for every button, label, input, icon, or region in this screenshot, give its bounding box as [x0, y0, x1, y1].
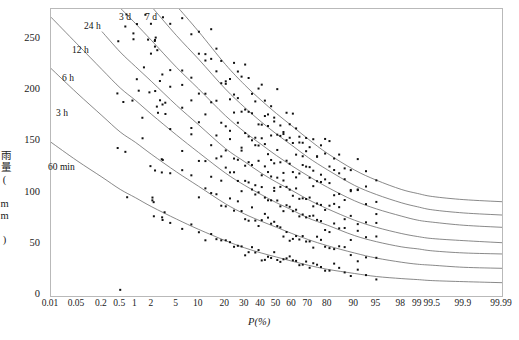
scatter-point	[312, 138, 314, 140]
scatter-point	[225, 149, 227, 151]
scatter-point	[220, 239, 222, 241]
scatter-point	[320, 181, 322, 183]
y-tick-label: 200	[6, 83, 40, 94]
scatter-point	[324, 153, 326, 155]
scatter-point	[289, 189, 291, 191]
scatter-point	[261, 219, 263, 221]
scatter-point	[276, 177, 278, 179]
scatter-point	[254, 184, 256, 186]
scatter-point	[324, 178, 326, 180]
scatter-point	[309, 215, 311, 217]
scatter-point	[282, 131, 284, 133]
scatter-point	[161, 73, 163, 75]
scatter-point	[302, 264, 304, 266]
scatter-point	[273, 187, 275, 189]
scatter-point	[365, 236, 367, 238]
scatter-point	[320, 239, 322, 241]
scatter-point	[320, 174, 322, 176]
scatter-point	[150, 23, 152, 25]
scatter-point	[258, 88, 260, 90]
scatter-point	[289, 206, 291, 208]
scatter-point	[289, 255, 291, 257]
scatter-point	[251, 139, 253, 141]
scatter-point	[270, 159, 272, 161]
scatter-point	[286, 204, 288, 206]
scatter-point	[292, 195, 294, 197]
scatter-point	[241, 147, 243, 149]
scatter-point	[279, 186, 281, 188]
scatter-point	[273, 117, 275, 119]
scatter-point	[273, 221, 275, 223]
scatter-point	[237, 97, 239, 99]
scatter-point	[248, 220, 250, 222]
scatter-point	[338, 267, 340, 269]
curve-label-12-h: 12 h	[72, 45, 89, 55]
scatter-point	[241, 150, 243, 152]
scatter-point	[215, 193, 217, 195]
scatter-point	[164, 113, 166, 115]
curve-3-d	[152, 9, 502, 215]
scatter-point	[338, 227, 340, 229]
scatter-point	[312, 170, 314, 172]
scatter-point	[181, 17, 183, 19]
scatter-point	[333, 169, 335, 171]
scatter-point	[198, 31, 200, 33]
scatter-point	[305, 261, 307, 263]
scatter-point	[190, 77, 192, 79]
scatter-point	[338, 154, 340, 156]
scatter-point	[244, 180, 246, 182]
scatter-point	[295, 187, 297, 189]
scatter-point	[302, 213, 304, 215]
scatter-point	[229, 241, 231, 243]
scatter-point	[237, 180, 239, 182]
scatter-point	[305, 241, 307, 243]
scatter-point	[198, 196, 200, 198]
scatter-point	[198, 160, 200, 162]
scatter-point	[286, 186, 288, 188]
scatter-point	[267, 113, 269, 115]
scatter-point	[204, 187, 206, 189]
scatter-point	[261, 174, 263, 176]
scatter-point	[267, 217, 269, 219]
scatter-point	[305, 137, 307, 139]
scatter-point	[142, 137, 144, 139]
scatter-point	[258, 123, 260, 125]
scatter-point	[350, 215, 352, 217]
scatter-point	[344, 218, 346, 220]
scatter-point	[333, 203, 335, 205]
curve-24-h	[120, 9, 502, 227]
scatter-point	[154, 39, 156, 41]
y-tick-label: 150	[6, 134, 40, 145]
scatter-point	[162, 16, 164, 18]
scatter-point	[233, 246, 235, 248]
scatter-point	[324, 246, 326, 248]
scatter-point	[279, 205, 281, 207]
scatter-point	[264, 213, 266, 215]
scatter-point	[215, 238, 217, 240]
scatter-point	[298, 238, 300, 240]
scatter-point	[289, 137, 291, 139]
scatter-point	[233, 158, 235, 160]
scatter-point	[264, 143, 266, 145]
scatter-point	[156, 106, 158, 108]
scatter-point	[292, 142, 294, 144]
scatter-point	[225, 205, 227, 207]
y-tick-label: 250	[6, 32, 40, 43]
scatter-point	[229, 130, 231, 132]
scatter-point-outlier	[119, 289, 121, 291]
scatter-point	[164, 211, 166, 213]
scatter-point	[248, 181, 250, 183]
scatter-point	[328, 182, 330, 184]
scatter-point	[132, 32, 134, 34]
scatter-point	[270, 223, 272, 225]
scatter-point	[344, 167, 346, 169]
scatter-point	[251, 164, 253, 166]
chart-canvas	[51, 9, 502, 296]
scatter-point	[215, 157, 217, 159]
scatter-point	[333, 248, 335, 250]
scatter-point	[181, 169, 183, 171]
scatter-point	[148, 91, 150, 93]
scatter-point	[292, 171, 294, 173]
scatter-point	[344, 227, 346, 229]
scatter-point	[138, 90, 140, 92]
